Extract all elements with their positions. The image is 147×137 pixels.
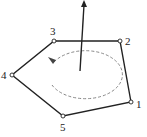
rotation-arrowhead-icon: [48, 57, 56, 64]
vertex-4: [10, 73, 14, 77]
vertex-label-3: 3: [50, 25, 56, 37]
vertex-1: [129, 100, 133, 104]
vertex-2: [118, 39, 122, 43]
vertex-label-5: 5: [60, 121, 66, 133]
vertex-label-1: 1: [136, 98, 142, 110]
vertex-label-4: 4: [1, 69, 7, 81]
vertex-5: [61, 114, 65, 118]
normal-vector-arrow: [80, 5, 84, 71]
rotation-direction-arc: [52, 51, 122, 99]
vertex-3: [52, 39, 56, 43]
normal-arrowhead-icon: [81, 0, 87, 7]
vertex-label-2: 2: [125, 35, 131, 47]
polygon-diagram: 1 2 3 4 5: [0, 0, 147, 137]
